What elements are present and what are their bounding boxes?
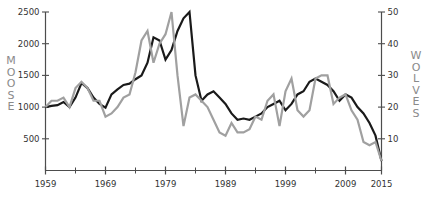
left-axis: 5001000150020002500 — [18, 7, 49, 171]
x-tick-label-1979: 1979 — [155, 179, 177, 189]
wolves-label-char-0: W — [409, 50, 423, 62]
right-tick-label-40: 40 — [388, 39, 399, 49]
moose-label-char-4: E — [4, 101, 18, 113]
x-tick-label-1989: 1989 — [215, 179, 237, 189]
x-axis: 1959196919791989199920092015 — [35, 167, 393, 189]
moose-label-char-0: M — [4, 55, 18, 67]
right-tick-label-20: 20 — [388, 102, 399, 112]
right-axis: 1020304050 — [378, 7, 398, 171]
series-line-moose — [46, 12, 382, 161]
wolves-label-char-5: S — [409, 108, 423, 120]
left-tick-label-2500: 2500 — [18, 7, 40, 17]
right-tick-label-50: 50 — [388, 7, 399, 17]
left-tick-label-2000: 2000 — [18, 39, 40, 49]
x-tick-label-2009: 2009 — [335, 179, 357, 189]
x-tick-label-1969: 1969 — [95, 179, 117, 189]
right-axis-title-wolves: WOLVES — [409, 50, 423, 119]
left-tick-label-1000: 1000 — [18, 102, 40, 112]
x-tick-label-1999: 1999 — [275, 179, 297, 189]
left-tick-label-500: 500 — [23, 134, 39, 144]
moose-label-char-2: O — [4, 78, 18, 90]
series-line-wolves — [46, 12, 382, 161]
wolves-label-char-2: L — [409, 73, 423, 85]
wolves-label-char-4: E — [409, 96, 423, 108]
moose-wolves-line-chart: 5001000150020002500 1020304050 195919691… — [0, 0, 427, 198]
series-lines — [46, 12, 382, 161]
left-tick-label-1500: 1500 — [18, 70, 40, 80]
right-tick-label-30: 30 — [388, 70, 399, 80]
right-tick-label-10: 10 — [388, 134, 399, 144]
chart-figure: MOOSE WOLVES 5001000150020002500 1020304… — [0, 0, 427, 198]
left-axis-title-moose: MOOSE — [4, 55, 18, 113]
x-tick-label-2015: 2015 — [371, 179, 393, 189]
x-tick-label-1959: 1959 — [35, 179, 57, 189]
